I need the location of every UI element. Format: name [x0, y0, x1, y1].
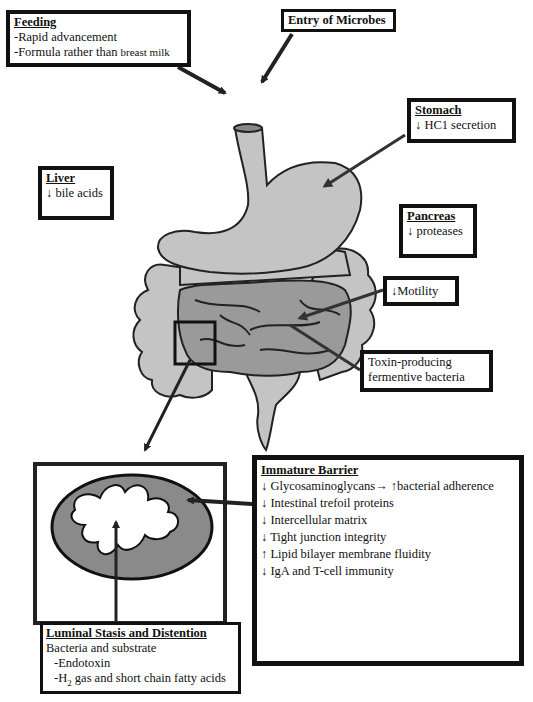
feeding-item: -Rapid advancement: [14, 30, 183, 45]
stomach: [158, 128, 361, 274]
toxin-line: fermentive bacteria: [368, 370, 485, 385]
motility-box: ↓Motility: [383, 276, 459, 306]
luminal-title: Luminal Stasis and Distention: [46, 626, 235, 641]
toxin-line: Toxin-producing: [368, 355, 485, 370]
barrier-item: ↓ Glycosaminoglycans→ ↑bacterial adheren…: [261, 478, 515, 495]
pancreas-box: Pancreas ↓ proteases: [399, 204, 477, 258]
barrier-item: ↓ Intestinal trefoil proteins: [261, 495, 515, 512]
stomach-item: ↓ HC1 secretion: [415, 118, 508, 133]
motility-label: ↓Motility: [391, 284, 451, 299]
feeding-title: Feeding: [14, 15, 183, 30]
luminal-stasis-box: Luminal Stasis and Distention Bacteria a…: [40, 622, 241, 694]
barrier-item: ↑ Lipid bilayer membrane fluidity: [261, 546, 515, 563]
small-intestine: [178, 280, 351, 375]
luminal-line: -Endotoxin: [46, 656, 235, 671]
esophagus-opening: [234, 124, 262, 132]
barrier-title: Immature Barrier: [261, 463, 515, 478]
luminal-line: Bacteria and substrate: [46, 641, 235, 656]
barrier-item: ↓ IgA and T-cell immunity: [261, 563, 515, 580]
liver-box: Liver ↓ bile acids: [38, 166, 114, 220]
entry-of-microbes-box: Entry of Microbes: [281, 9, 396, 32]
pancreas-title: Pancreas: [407, 209, 469, 224]
toxin-bacteria-box: Toxin-producing fermentive bacteria: [360, 350, 493, 392]
stomach-title: Stomach: [415, 103, 508, 118]
barrier-item: ↓ Intercellular matrix: [261, 512, 515, 529]
luminal-line: -H2 gas and short chain fatty acids: [46, 671, 235, 691]
feeding-item: -Formula rather than breast milk: [14, 45, 183, 60]
immature-barrier-box: Immature Barrier ↓ Glycosaminoglycans→ ↑…: [252, 455, 524, 666]
feeding-box: Feeding -Rapid advancement -Formula rath…: [6, 10, 191, 67]
liver-item: ↓ bile acids: [46, 186, 106, 201]
liver-title: Liver: [46, 171, 106, 186]
pancreas-item: ↓ proteases: [407, 224, 469, 239]
barrier-item: ↓ Tight junction integrity: [261, 529, 515, 546]
entry-title: Entry of Microbes: [288, 13, 389, 28]
stomach-box: Stomach ↓ HC1 secretion: [407, 98, 516, 143]
